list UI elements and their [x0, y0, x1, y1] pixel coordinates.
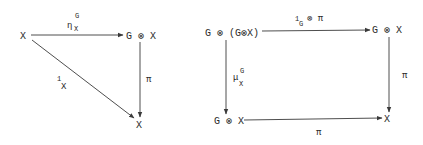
label-mu: μ X G [233, 67, 244, 88]
svg-text:X: X [239, 80, 244, 88]
label-eta: η X G [67, 12, 79, 33]
svg-text:G: G [75, 12, 79, 20]
svg-text:G: G [299, 20, 303, 28]
node-gx-bottom-left: G ⊗ X [214, 116, 244, 127]
label-pi-bottom: π [316, 128, 322, 138]
unit-triangle-diagram: X G ⊗ X X η X G 1 X π [20, 12, 156, 131]
node-gx-top-right: G ⊗ X [126, 31, 156, 42]
arrow-1g-tensor-pi [262, 30, 370, 31]
svg-text:X: X [61, 82, 67, 92]
arrow-identity-diagonal [32, 40, 134, 118]
associativity-square-diagram: G ⊗ (G⊗X) G ⊗ X G ⊗ X X 1 G ⊗ π μ X G π … [205, 14, 408, 138]
node-x-top-left: X [20, 31, 26, 42]
node-g-gx-top-left: G ⊗ (G⊗X) [205, 28, 259, 39]
node-x-bottom-right: X [136, 120, 142, 131]
svg-text:⊗ π: ⊗ π [307, 14, 324, 24]
svg-text:G: G [240, 67, 244, 75]
label-identity: 1 X [57, 75, 67, 92]
node-x-bottom-right: X [384, 114, 390, 125]
svg-text:X: X [74, 25, 79, 33]
arrow-pi-bottom [244, 118, 382, 120]
node-gx-top-right: G ⊗ X [372, 25, 402, 36]
label-1g-tensor-pi: 1 G ⊗ π [295, 14, 324, 28]
label-pi-right: π [146, 75, 152, 85]
label-pi-right: π [402, 71, 408, 81]
svg-text:η: η [67, 21, 72, 31]
commutative-diagrams: X G ⊗ X X η X G 1 X π G ⊗ (G⊗X) G ⊗ X G … [0, 0, 423, 145]
